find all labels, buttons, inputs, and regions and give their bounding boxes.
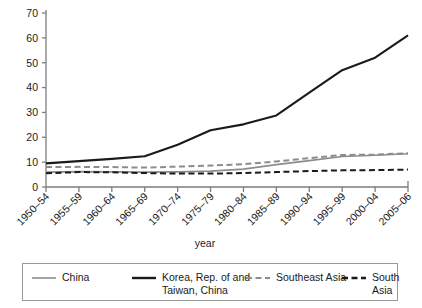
x-axis-title: year bbox=[195, 237, 216, 249]
legend-swatch-2 bbox=[245, 272, 271, 284]
x-tick-label: 1985–89 bbox=[244, 190, 282, 228]
y-tick-label: 60 bbox=[26, 32, 38, 44]
y-tick-label: 40 bbox=[26, 81, 38, 93]
x-tick-label: 1960–64 bbox=[80, 190, 118, 228]
series-line-1 bbox=[46, 35, 408, 163]
line-chart-plot: 010203040506070 1950–541955–591960–64196… bbox=[0, 0, 422, 260]
data-series-group bbox=[46, 35, 408, 173]
y-tick-label: 20 bbox=[26, 131, 38, 143]
legend-item-2[interactable]: Southeast Asia bbox=[245, 271, 346, 284]
legend-swatch-3 bbox=[341, 272, 367, 284]
y-axis: 010203040506070 bbox=[26, 7, 46, 193]
legend-label-1: Korea, Rep. of and Taiwan, China bbox=[162, 271, 250, 296]
chart-legend: ChinaKorea, Rep. of and Taiwan, ChinaSou… bbox=[22, 263, 398, 301]
x-tick-label: 1955–59 bbox=[47, 190, 85, 228]
x-tick-label: 1980–84 bbox=[211, 190, 249, 228]
x-tick-label: 1975–79 bbox=[179, 190, 217, 228]
legend-swatch-1 bbox=[131, 272, 157, 284]
legend-entries: ChinaKorea, Rep. of and Taiwan, ChinaSou… bbox=[23, 264, 397, 300]
legend-item-0[interactable]: China bbox=[31, 271, 89, 284]
y-tick-label: 10 bbox=[26, 156, 38, 168]
x-tick-label: 2000–04 bbox=[343, 190, 381, 228]
y-tick-label: 70 bbox=[26, 7, 38, 19]
x-tick-label: 1995–99 bbox=[310, 190, 348, 228]
legend-swatch-0 bbox=[31, 272, 57, 284]
x-tick-label: 1990–94 bbox=[277, 190, 315, 228]
legend-item-1[interactable]: Korea, Rep. of and Taiwan, China bbox=[131, 271, 250, 296]
legend-label-3: South Asia bbox=[372, 271, 399, 296]
legend-label-0: China bbox=[62, 271, 89, 284]
y-tick-label: 50 bbox=[26, 57, 38, 69]
legend-item-3[interactable]: South Asia bbox=[341, 271, 399, 296]
legend-label-2: Southeast Asia bbox=[276, 271, 346, 284]
chart-figure: 010203040506070 1950–541955–591960–64196… bbox=[0, 0, 422, 308]
y-tick-label: 0 bbox=[32, 181, 38, 193]
x-tick-label: 2005–06 bbox=[376, 190, 414, 228]
x-tick-label: 1950–54 bbox=[14, 190, 52, 228]
x-axis: 1950–541955–591960–641965–691970–741975–… bbox=[14, 181, 414, 227]
y-tick-label: 30 bbox=[26, 106, 38, 118]
x-tick-label: 1970–74 bbox=[146, 190, 184, 228]
x-tick-label: 1965–69 bbox=[113, 190, 151, 228]
